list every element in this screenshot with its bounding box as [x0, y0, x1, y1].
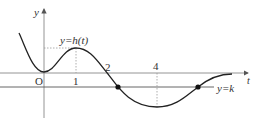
- curve-h: [19, 33, 232, 107]
- function-graph: y t O 1 2 4 y=h(t) y=k: [0, 0, 256, 120]
- tick-label-2: 2: [105, 61, 111, 73]
- line-k-label: y=k: [216, 82, 235, 94]
- tick-label-4: 4: [153, 60, 159, 72]
- tick-label-1: 1: [73, 75, 79, 87]
- t-axis-label: t: [247, 75, 250, 86]
- origin-label: O: [35, 75, 43, 87]
- intersection-point-left: [115, 84, 120, 89]
- intersection-point-right: [195, 84, 200, 89]
- y-axis-label: y: [33, 6, 39, 18]
- curve-label: y=h(t): [59, 34, 89, 47]
